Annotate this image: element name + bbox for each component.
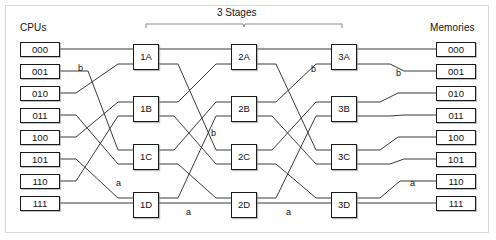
cpus-header: CPUs [20,22,47,33]
wire-3D-mem110 [357,181,436,198]
network-diagram-figure: CPUs Memories 3 Stages 000 001 010 011 1… [0,0,496,240]
wire-1A-2C [159,64,231,150]
memory-box[interactable]: 100 [436,130,476,145]
packet-label-a: a [186,207,191,217]
memories-header: Memories [430,22,475,33]
wire-2C-3D [257,164,331,198]
wire-cpu101-1D [60,159,133,198]
packet-label-b: b [78,63,83,73]
wire-2A-3C [257,64,331,150]
wire-2C-3B [257,102,331,150]
cpu-box[interactable]: 111 [20,196,60,211]
cpu-box[interactable]: 000 [20,42,60,57]
packet-label-a: a [116,178,121,188]
packet-label-b: b [311,64,316,74]
switch-box-stage2[interactable]: 2B [231,96,257,122]
wire-cpu010-1A [60,64,133,93]
packet-label-a: a [286,207,291,217]
packet-label-b: b [396,68,401,78]
packet-label-a: a [410,178,415,188]
cpu-box[interactable]: 011 [20,108,60,123]
cpu-box[interactable]: 110 [20,174,60,189]
memory-box[interactable]: 110 [436,174,476,189]
wire-1B-2C [159,116,231,164]
switch-box-stage2[interactable]: 2C [231,144,257,170]
switch-box-stage3[interactable]: 3C [331,144,357,170]
wire-1C-2D [159,164,231,198]
cpu-box[interactable]: 101 [20,152,60,167]
wire-cpu100-1B [60,102,133,137]
memory-box[interactable]: 111 [436,196,476,211]
switch-box-stage3[interactable]: 3D [331,192,357,218]
switch-box-stage2[interactable]: 2D [231,192,257,218]
switch-box-stage3[interactable]: 3B [331,96,357,122]
memory-box[interactable]: 101 [436,152,476,167]
switch-box-stage3[interactable]: 3A [331,44,357,70]
packet-label-b: b [211,128,216,138]
wire-2D-3B [257,116,331,198]
wire-3C-mem101 [357,159,436,164]
memory-box[interactable]: 000 [436,42,476,57]
wire-1D-2B [159,116,231,198]
stage-caption: 3 Stages [217,7,256,18]
wire-1C-2B [159,102,231,150]
wire-2B-3C [257,116,331,164]
wire-3B-mem010 [357,93,436,102]
switch-box-stage1[interactable]: 1C [133,144,159,170]
cpu-box[interactable]: 010 [20,86,60,101]
switch-box-stage1[interactable]: 1D [133,192,159,218]
wire-3C-mem100 [357,137,436,150]
wire-3B-mem011 [357,115,436,116]
memory-box[interactable]: 011 [436,108,476,123]
wire-2B-3A [257,64,331,102]
wire-cpu011-1C [60,115,133,164]
wire-1B-2A [159,64,231,102]
cpu-box[interactable]: 100 [20,130,60,145]
cpu-box[interactable]: 001 [20,64,60,79]
stage-bracket-line [146,24,342,28]
wire-cpu110-1B [60,116,133,181]
switch-box-stage1[interactable]: 1B [133,96,159,122]
switch-box-stage1[interactable]: 1A [133,44,159,70]
memory-box[interactable]: 010 [436,86,476,101]
memory-box[interactable]: 001 [436,64,476,79]
switch-box-stage2[interactable]: 2A [231,44,257,70]
